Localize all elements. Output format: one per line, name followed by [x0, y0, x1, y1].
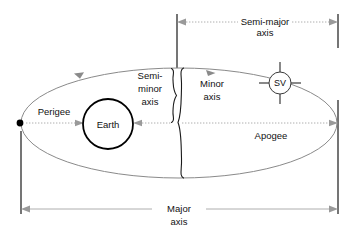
major-axis-label-line2: axis: [171, 216, 188, 227]
minor-axis-label-line1: Minor: [200, 78, 224, 89]
major-axis-label-line1: Major: [167, 203, 191, 214]
minor-axis-label-line2: axis: [204, 91, 221, 102]
semi-minor-axis-label-line2: minor: [138, 83, 162, 94]
earth-label: Earth: [97, 119, 120, 130]
perigee-label: Perigee: [38, 106, 71, 117]
orbit-diagram: Semi-major axis Earth Perigee Apogee SV: [0, 0, 355, 238]
semi-major-axis-label-line1: Semi-major: [241, 16, 290, 27]
semi-major-axis-label-line2: axis: [257, 27, 274, 38]
orbit-direction-arrow-right: [206, 70, 216, 76]
major-axis-arrow-right: [329, 206, 338, 213]
orbit-direction-arrow-left: [74, 72, 84, 79]
major-axis-arrow-left: [21, 206, 30, 213]
sv-satellite: SV: [259, 62, 301, 104]
semi-minor-axis-label-line1: Semi-: [138, 70, 163, 81]
semi-major-arrow-right: [329, 19, 338, 26]
apogee-label: Apogee: [255, 130, 288, 141]
semi-minor-arrow: [133, 120, 142, 126]
semi-minor-axis-brace: [172, 69, 177, 123]
orbit-focus-dot: [17, 120, 24, 127]
sv-label: SV: [274, 78, 286, 88]
semi-major-arrow-left: [177, 19, 186, 26]
semi-minor-axis-label-line3: axis: [142, 96, 159, 107]
orbit-diagram-canvas: Semi-major axis Earth Perigee Apogee SV: [0, 0, 355, 238]
